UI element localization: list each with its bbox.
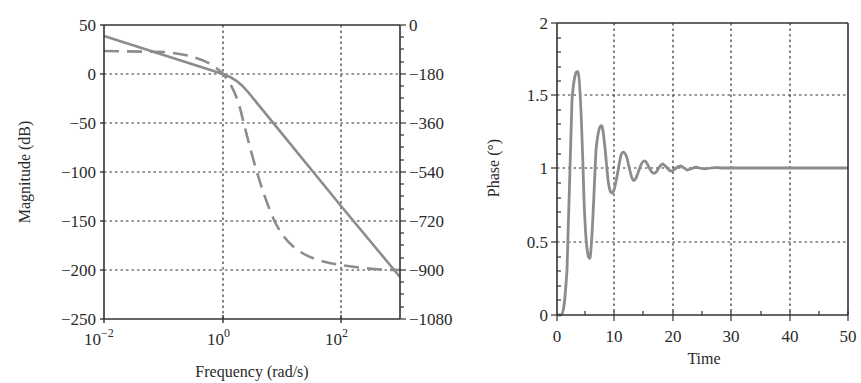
- bode-left-tick-labels: 50 0 −50 −100 −150 −200 −250: [61, 16, 96, 329]
- ytick-label: 50: [79, 16, 96, 35]
- ytick-right-label: −180: [409, 65, 444, 84]
- xtick-label: 10: [606, 327, 623, 346]
- xtick-label: 10−2: [84, 326, 114, 349]
- ytick-label: −150: [61, 212, 96, 231]
- bode-ylabel: Magnitude (dB): [16, 121, 34, 224]
- ytick-right-label: −540: [409, 163, 444, 182]
- xtick-label: 20: [665, 327, 682, 346]
- xtick-label: 102: [325, 326, 348, 349]
- bode-curves: [104, 36, 400, 277]
- ytick-right-label: −360: [409, 114, 444, 133]
- ytick-label: 0.5: [527, 233, 548, 252]
- ytick-right-label: −900: [409, 261, 444, 280]
- bode-right-tick-labels: 0 −180 −360 −540 −720 −900 −1080: [409, 16, 453, 329]
- step-y-tick-labels: 0 0.5 1 1.5 2: [527, 14, 548, 325]
- xtick-label: 50: [840, 327, 857, 346]
- step-x-tick-labels: 0 10 20 30 40 50: [553, 327, 857, 346]
- bode-xlabel: Frequency (rad/s): [195, 363, 308, 381]
- bode-x-tick-labels: 10−2 100 102: [84, 326, 348, 349]
- ytick-label: 1.5: [527, 86, 548, 105]
- phase-curve: [104, 51, 400, 270]
- ytick-right-label: −720: [409, 212, 444, 231]
- xtick-label: 100: [207, 326, 230, 349]
- ytick-label: −100: [61, 163, 96, 182]
- bode-grid: [104, 25, 400, 319]
- step-y-ticks: [551, 23, 561, 315]
- xtick-label: 30: [723, 327, 740, 346]
- ytick-right-label: −1080: [409, 310, 453, 329]
- ytick-label: −250: [61, 310, 96, 329]
- ytick-right-label: 0: [409, 16, 418, 35]
- ytick-label: 0: [540, 306, 549, 325]
- ytick-label: −50: [69, 114, 96, 133]
- ytick-label: 1: [540, 159, 549, 178]
- xtick-label: 40: [782, 327, 799, 346]
- ytick-label: 2: [540, 14, 549, 33]
- step-x-ticks: [557, 311, 848, 321]
- step-ylabel: Phase (°): [485, 139, 503, 197]
- step-xlabel: Time: [687, 350, 720, 367]
- step-chart: 0 0.5 1 1.5 2 0 10 20 30 40 50 Time Phas…: [485, 14, 857, 367]
- bode-right-ticks: [400, 25, 406, 319]
- ytick-label: −200: [61, 261, 96, 280]
- figure: 50 0 −50 −100 −150 −200 −250 0 −180 −360…: [0, 0, 861, 383]
- xtick-label: 0: [553, 327, 562, 346]
- ytick-label: 0: [88, 65, 97, 84]
- bode-chart: 50 0 −50 −100 −150 −200 −250 0 −180 −360…: [16, 16, 453, 381]
- step-response-curve: [557, 72, 848, 315]
